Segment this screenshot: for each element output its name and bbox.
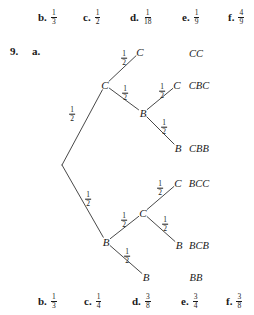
- tree-outcome-label: BB: [190, 272, 203, 283]
- fraction-denominator: 2: [121, 221, 127, 229]
- fraction: 12: [121, 212, 127, 229]
- branch-probability: 12: [157, 178, 163, 197]
- fraction: 12: [161, 119, 167, 136]
- tree-branch: [147, 217, 175, 242]
- fraction: 12: [162, 216, 168, 233]
- answer-option-letter: f.: [226, 295, 232, 307]
- tree-branch: [62, 165, 103, 237]
- answer-option[interactable]: e.34: [181, 293, 198, 310]
- branch-probability: 12: [85, 189, 91, 208]
- fraction-denominator: 2: [161, 128, 167, 136]
- fraction: 14: [96, 293, 102, 310]
- branch-probability: 12: [69, 104, 75, 123]
- fraction-denominator: 2: [121, 59, 127, 67]
- fraction-denominator: 4: [96, 302, 102, 310]
- tree-node-label: C: [136, 46, 143, 58]
- tree-outcome-label: BCB: [189, 240, 209, 251]
- fraction: 38: [236, 293, 242, 310]
- branch-probability: 12: [122, 83, 128, 102]
- fraction: 12: [124, 248, 130, 265]
- branch-probability: 12: [161, 117, 167, 136]
- fraction: 12: [157, 180, 163, 197]
- fraction: 12: [121, 50, 127, 67]
- fraction: 13: [51, 293, 57, 310]
- fraction: 12: [159, 83, 165, 100]
- answer-option-letter: e.: [181, 295, 189, 307]
- answer-options-row-bottom: b.13c.14d.38e.34f.38: [0, 288, 254, 314]
- answer-option[interactable]: b.13: [38, 293, 57, 310]
- answer-option[interactable]: f.38: [226, 293, 242, 310]
- fraction-denominator: 2: [85, 200, 91, 208]
- fraction-denominator: 2: [69, 115, 75, 123]
- fraction: 34: [193, 293, 199, 310]
- tree-outcome-label: CBC: [189, 80, 209, 91]
- fraction-denominator: 2: [159, 92, 165, 100]
- probability-tree-diagram: [0, 0, 254, 315]
- branch-probability: 12: [124, 246, 130, 265]
- answer-option-letter: b.: [38, 295, 47, 307]
- fraction-denominator: 2: [124, 257, 130, 265]
- branch-probability: 12: [121, 48, 127, 67]
- tree-node-label: C: [173, 79, 180, 91]
- tree-outcome-label: CC: [189, 48, 203, 59]
- fraction: 12: [122, 85, 128, 102]
- tree-node-label: B: [175, 142, 182, 154]
- answer-option[interactable]: d.38: [132, 293, 151, 310]
- fraction-denominator: 4: [193, 302, 199, 310]
- answer-option-letter: c.: [84, 295, 92, 307]
- tree-outcome-label: CBB: [189, 143, 209, 154]
- answer-option[interactable]: c.14: [84, 293, 101, 310]
- tree-node-label: B: [103, 236, 110, 248]
- fraction-denominator: 3: [51, 302, 57, 310]
- tree-outcome-label: BCC: [189, 178, 209, 189]
- fraction-denominator: 8: [236, 302, 242, 310]
- fraction-denominator: 2: [157, 189, 163, 197]
- tree-node-label: C: [174, 177, 181, 189]
- fraction-denominator: 2: [122, 94, 128, 102]
- answer-option-letter: d.: [132, 295, 141, 307]
- tree-node-label: B: [143, 271, 150, 283]
- tree-node-label: B: [176, 239, 183, 251]
- fraction-denominator: 8: [145, 302, 151, 310]
- fraction: 12: [85, 191, 91, 208]
- fraction: 12: [69, 106, 75, 123]
- fraction: 38: [145, 293, 151, 310]
- tree-node-label: C: [101, 79, 108, 91]
- tree-node-label: B: [140, 107, 147, 119]
- branch-probability: 12: [162, 214, 168, 233]
- branch-probability: 12: [159, 81, 165, 100]
- tree-node-label: C: [139, 207, 146, 219]
- branch-probability: 12: [121, 210, 127, 229]
- tree-branch: [62, 90, 102, 165]
- fraction-denominator: 2: [162, 225, 168, 233]
